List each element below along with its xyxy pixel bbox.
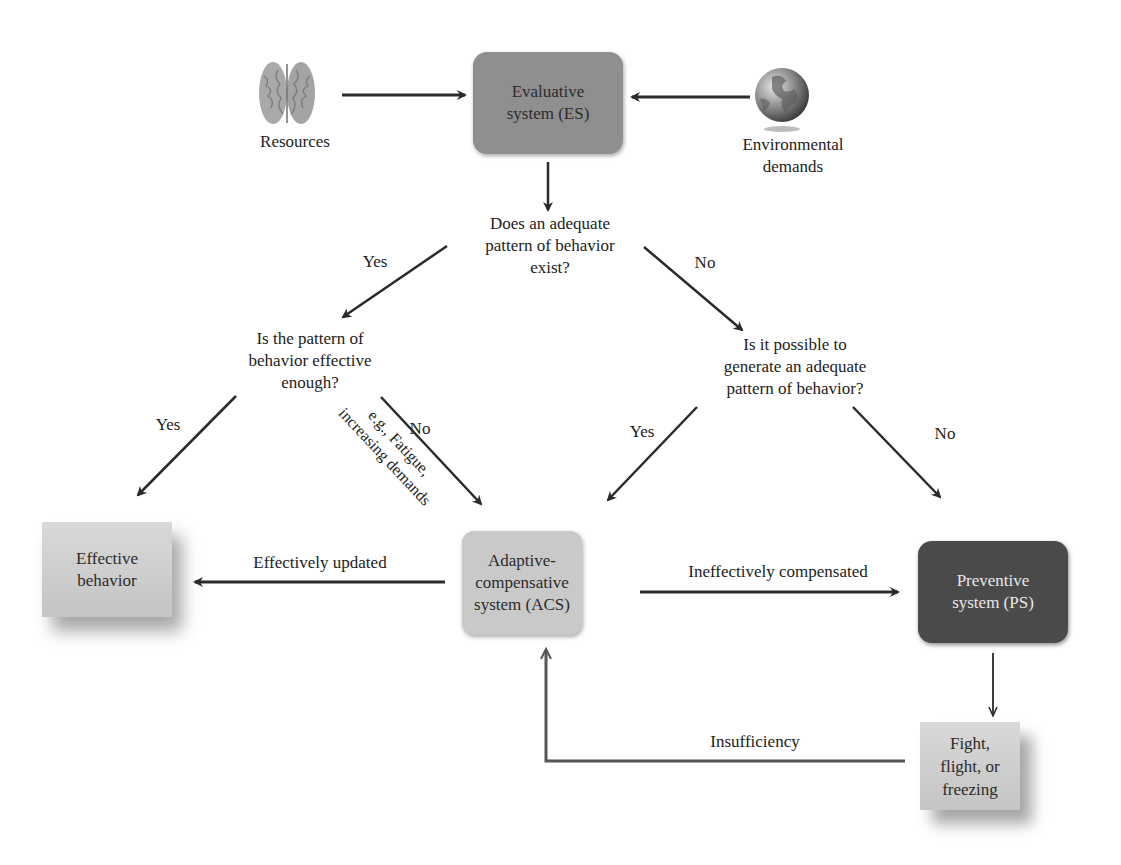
question-pattern-effective: Is the pattern of behavior effective eno…: [210, 328, 410, 394]
question-possible-to-generate: Is it possible to generate an adequate p…: [680, 334, 910, 400]
environmental-demands-label: Environmental demands: [718, 134, 868, 178]
adaptive-compensative-system-node: Adaptive- compensative system (ACS): [462, 531, 582, 635]
edge-label-q3-no: No: [925, 423, 965, 445]
question-pattern-exists: Does an adequate pattern of behavior exi…: [440, 213, 660, 279]
preventive-system-node: Preventive system (PS): [918, 541, 1068, 643]
edge-label-q3-yes: Yes: [617, 421, 667, 443]
edge-label-effectively-updated: Effectively updated: [215, 552, 425, 574]
edge-label-insufficiency: Insufficiency: [680, 731, 830, 753]
resources-label: Resources: [240, 131, 350, 153]
edge-label-q1-yes: Yes: [350, 251, 400, 273]
fight-flight-freezing-node: Fight, flight, or freezing: [920, 722, 1020, 810]
effective-behavior-node: Effective behavior: [42, 522, 172, 617]
evaluative-system-node: Evaluative system (ES): [473, 52, 623, 154]
edge-label-ineffectively-compensated: Ineffectively compensated: [648, 561, 908, 583]
flowchart: Resources Environmental demands Evaluati…: [0, 0, 1121, 865]
arrow-q3-no: [853, 407, 940, 497]
arrow-q2-yes: [138, 396, 236, 495]
edge-label-q2-yes: Yes: [143, 414, 193, 436]
edge-label-q1-no: No: [685, 252, 725, 274]
globe-icon: [752, 65, 812, 139]
brain-icon: [258, 58, 316, 132]
